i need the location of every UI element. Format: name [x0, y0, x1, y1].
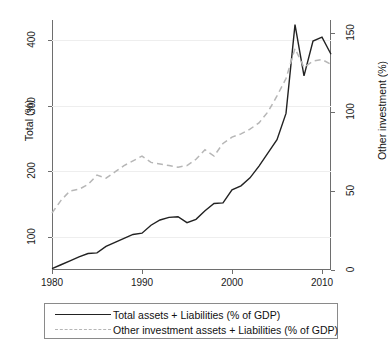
- y2-tick-label: 50: [345, 177, 356, 203]
- x-tick-label: 1980: [37, 277, 67, 288]
- legend-item-other-investment: Other investment assets + Liabilities (%…: [51, 322, 331, 337]
- legend-label-total: Total assets + Liabilities (% of GDP): [113, 309, 280, 321]
- y2-tick: [331, 191, 335, 192]
- x-tick-label: 1990: [127, 277, 157, 288]
- y2-tick: [331, 33, 335, 34]
- series-line-total: [52, 25, 331, 269]
- plot-area: [52, 20, 331, 270]
- legend-item-total: Total assets + Liabilities (% of GDP): [51, 307, 331, 322]
- y2-tick-label: 150: [345, 19, 356, 45]
- y-tick-label: 100: [26, 222, 37, 252]
- right-axis-title: Other investment (%): [376, 46, 388, 241]
- x-tick: [232, 270, 233, 274]
- y2-tick-label: 100: [345, 98, 356, 124]
- chart-legend: Total assets + Liabilities (% of GDP) Ot…: [44, 303, 338, 339]
- x-tick: [322, 270, 323, 274]
- x-tick: [142, 270, 143, 274]
- y2-tick-label: 0: [345, 257, 356, 283]
- series-line-other-investment: [52, 48, 331, 213]
- y2-tick: [331, 112, 335, 113]
- x-tick: [52, 270, 53, 274]
- x-tick-label: 2000: [217, 277, 247, 288]
- y-tick-label: 400: [26, 24, 37, 54]
- x-tick-label: 2010: [307, 277, 337, 288]
- y2-tick: [331, 270, 335, 271]
- y-tick-label: 300: [26, 90, 37, 120]
- series-lines: [52, 20, 331, 270]
- legend-swatch-dashed-line: [51, 325, 113, 335]
- y-tick-label: 200: [26, 156, 37, 186]
- legend-swatch-solid-line: [51, 310, 113, 320]
- legend-label-other-investment: Other investment assets + Liabilities (%…: [113, 324, 338, 336]
